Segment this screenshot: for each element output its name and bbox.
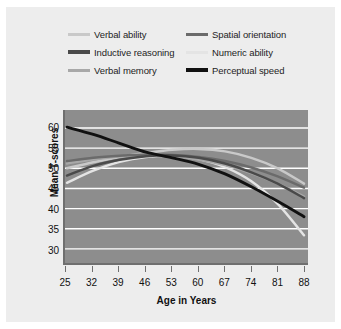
legend-swatch-icon <box>68 33 90 36</box>
x-tick-mark <box>304 266 305 272</box>
x-tick-label: 74 <box>239 277 263 288</box>
y-tick-label: 45 <box>33 184 59 194</box>
x-tick-mark <box>198 266 199 272</box>
x-tick-mark <box>92 266 93 272</box>
x-tick-mark <box>65 266 66 272</box>
x-tick-mark <box>145 266 146 272</box>
legend-label: Spatial orientation <box>212 29 286 40</box>
y-tick-label: 30 <box>33 246 59 256</box>
x-tick-label: 39 <box>106 277 130 288</box>
legend-swatch-icon <box>186 51 208 54</box>
legend-item-perceptual-speed[interactable]: Perceptual speed <box>186 65 318 76</box>
legend-label: Verbal memory <box>94 65 157 76</box>
x-tick-label: 25 <box>53 277 77 288</box>
y-tick-label: 35 <box>33 225 59 235</box>
x-tick-mark <box>251 266 252 272</box>
y-tick-label: 50 <box>33 164 59 174</box>
legend-item-spatial-orientation[interactable]: Spatial orientation <box>186 29 318 40</box>
legend-item-inductive-reasoning[interactable]: Inductive reasoning <box>68 47 186 58</box>
x-tick-label: 60 <box>186 277 210 288</box>
x-tick-mark <box>171 266 172 272</box>
legend-item-verbal-memory[interactable]: Verbal memory <box>68 65 186 76</box>
legend-swatch-icon <box>68 69 90 72</box>
x-tick-mark <box>277 266 278 272</box>
legend-item-verbal-ability[interactable]: Verbal ability <box>68 29 186 40</box>
chart-canvas <box>65 110 308 263</box>
x-tick-label: 46 <box>133 277 157 288</box>
chart-legend: Verbal abilitySpatial orientationInducti… <box>68 25 318 79</box>
x-axis-ticks: 25323946536067748188 <box>63 266 310 292</box>
legend-swatch-icon <box>68 50 90 54</box>
y-tick-label: 60 <box>33 123 59 133</box>
x-tick-label: 67 <box>212 277 236 288</box>
legend-label: Verbal ability <box>94 29 146 40</box>
legend-label: Inductive reasoning <box>94 47 175 58</box>
y-tick-label: 40 <box>33 205 59 215</box>
x-tick-label: 32 <box>80 277 104 288</box>
x-tick-mark <box>224 266 225 272</box>
plot-area <box>63 110 308 265</box>
plot-area-wrapper <box>63 110 308 265</box>
x-axis-title: Age in Years <box>63 295 310 306</box>
figure-panel: Verbal abilitySpatial orientationInducti… <box>6 7 335 322</box>
y-tick-label: 55 <box>33 144 59 154</box>
legend-swatch-icon <box>186 33 208 36</box>
legend-swatch-icon <box>186 68 208 72</box>
x-tick-label: 88 <box>292 277 316 288</box>
legend-label: Numeric ability <box>212 47 273 58</box>
legend-label: Perceptual speed <box>212 65 284 76</box>
x-tick-label: 53 <box>159 277 183 288</box>
x-tick-label: 81 <box>265 277 289 288</box>
legend-item-numeric-ability[interactable]: Numeric ability <box>186 47 318 58</box>
x-tick-mark <box>118 266 119 272</box>
